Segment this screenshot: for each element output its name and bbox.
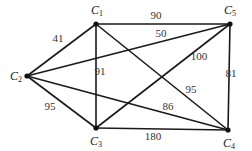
edge-weight-label: 86 <box>163 100 175 112</box>
node-label-subscript: 2 <box>18 75 22 84</box>
node-label-subscript: 1 <box>99 9 103 18</box>
node-c2 <box>24 73 29 78</box>
edge-c2-c3 <box>27 76 96 128</box>
node-label-c1: C1 <box>91 3 103 18</box>
edge-weight-label: 81 <box>226 67 237 79</box>
edge-c3-c4 <box>96 128 228 130</box>
node-label-c5: C5 <box>224 3 236 18</box>
node-label-c4: C4 <box>223 136 235 151</box>
edge-weight-label: 50 <box>156 27 168 39</box>
edge-weight-label: 95 <box>45 100 57 112</box>
node-label-c3: C3 <box>90 134 102 149</box>
node-label-c2: C2 <box>10 69 22 84</box>
edge-weight-label: 180 <box>145 130 162 142</box>
node-c4 <box>225 127 230 132</box>
edge-weight-label: 90 <box>151 9 163 21</box>
node-c3 <box>93 125 98 130</box>
node-label-subscript: 5 <box>232 9 236 18</box>
node-label-subscript: 3 <box>98 140 102 149</box>
edge-weight-label: 41 <box>53 32 64 44</box>
node-label-subscript: 4 <box>231 142 235 151</box>
edge-weight-label: 100 <box>191 50 208 62</box>
node-c5 <box>227 21 232 26</box>
node-c1 <box>93 21 98 26</box>
edge-weight-label: 95 <box>186 83 198 95</box>
edge-weight-label: 91 <box>95 65 106 77</box>
weighted-graph: 4190919550958610018081C1C2C3C4C5 <box>0 0 252 151</box>
